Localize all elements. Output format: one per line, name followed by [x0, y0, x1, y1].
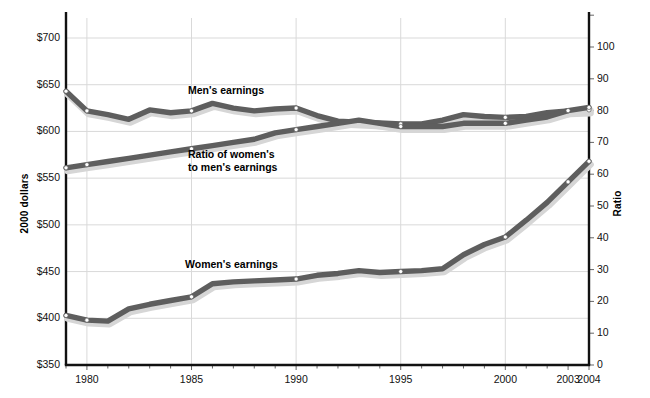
right-tick-30: 30: [597, 263, 609, 275]
left-tick-400: $400: [37, 311, 60, 323]
series-label-ratio: Ratio of women's to men's earnings: [188, 148, 277, 174]
right-tick-60: 60: [597, 167, 609, 179]
right-axis-title: Ratio: [612, 191, 623, 217]
left-tick-450: $450: [37, 265, 60, 277]
right-tick-0: 0: [597, 358, 603, 370]
left-tick-500: $500: [37, 218, 60, 230]
right-tick-90: 90: [597, 72, 609, 84]
series-label-ratio-line2: to men's earnings: [188, 161, 277, 173]
x-tick-2004: 2004: [569, 373, 609, 385]
right-tick-100: 100: [597, 40, 615, 52]
series-label-ratio-line1: Ratio of women's: [188, 148, 275, 160]
left-tick-350: $350: [37, 358, 60, 370]
x-tick-1990: 1990: [276, 373, 316, 385]
right-tick-10: 10: [597, 326, 609, 338]
right-tick-70: 70: [597, 135, 609, 147]
right-tick-50: 50: [597, 199, 609, 211]
left-tick-650: $650: [37, 78, 60, 90]
left-tick-600: $600: [37, 124, 60, 136]
left-tick-700: $700: [37, 31, 60, 43]
x-tick-2000: 2000: [485, 373, 525, 385]
x-tick-1995: 1995: [381, 373, 421, 385]
series-2: [66, 161, 591, 324]
left-tick-550: $550: [37, 171, 60, 183]
chart-canvas: 2000 dollars Ratio $700$650$600$550$500$…: [0, 0, 650, 398]
series-label-womens-earnings: Women's earnings: [185, 258, 278, 271]
right-tick-40: 40: [597, 231, 609, 243]
left-axis-title: 2000 dollars: [19, 173, 30, 233]
series-label-mens-earnings: Men's earnings: [188, 84, 264, 97]
x-tick-1980: 1980: [67, 373, 107, 385]
chart-plot-area: [0, 0, 650, 398]
right-tick-80: 80: [597, 104, 609, 116]
x-tick-1985: 1985: [172, 373, 212, 385]
right-tick-20: 20: [597, 294, 609, 306]
